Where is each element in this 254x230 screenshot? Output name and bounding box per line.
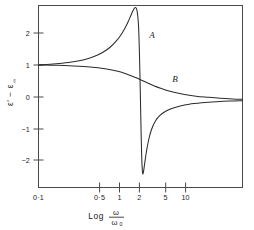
x-axis-title-denominator: ω	[112, 218, 118, 227]
x-axis-title-denominator-subscript: 0	[120, 221, 123, 227]
y-tick-label-2: 2	[26, 29, 30, 38]
y-tick-label-minus-1: −1	[21, 125, 30, 134]
curve-a-label: A	[148, 30, 155, 40]
x-tick-label-5: 5	[164, 193, 168, 202]
y-axis-title-text: ε' − ε	[5, 84, 15, 106]
y-tick-label-1: 1	[26, 61, 30, 70]
y-tick-label-minus-2: −2	[21, 156, 30, 165]
x-tick-label-10: 10	[181, 193, 189, 202]
y-axis-title: ε' − ε ∞	[5, 79, 17, 106]
chart-canvas: 2 1 0 −1 −2 0·1 0·5 1 2 5 10 A B Log ω ω…	[0, 0, 254, 230]
x-axis-title: Log ω ω 0	[88, 208, 124, 227]
curve-b-label: B	[172, 74, 178, 84]
dielectric-dispersion-figure: 2 1 0 −1 −2 0·1 0·5 1 2 5 10 A B Log ω ω…	[0, 0, 254, 230]
x-tick-label-0-5: 0·5	[94, 193, 105, 202]
x-tick-label-1: 1	[117, 193, 121, 202]
curve-a-resonance	[39, 8, 243, 174]
x-axis-title-numerator: ω	[113, 208, 119, 217]
x-tick-label-2: 2	[137, 193, 141, 202]
y-axis-title-subscript: ∞	[11, 79, 17, 83]
x-axis-title-log: Log	[88, 211, 104, 221]
y-tick-label-0: 0	[26, 93, 30, 102]
x-tick-label-0-1: 0·1	[33, 193, 44, 202]
